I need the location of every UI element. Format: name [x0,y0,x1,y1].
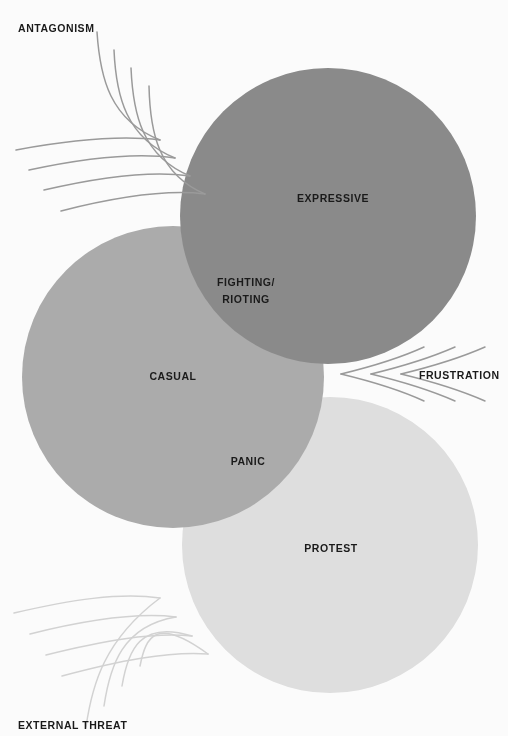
label-expressive: EXPRESSIVE [297,192,369,204]
label-antagonism: ANTAGONISM [18,22,94,34]
venn-diagram-canvas: EXPRESSIVE CASUAL PROTEST FIGHTING/ RIOT… [0,0,508,736]
label-casual: CASUAL [149,370,196,382]
antagonism-arrow-icon [16,32,205,211]
label-panic: PANIC [231,455,266,467]
label-fighting-rioting-line1: FIGHTING/ [217,276,275,288]
external-threat-arrow-icon [14,596,208,727]
label-external-threat: EXTERNAL THREAT [18,719,127,731]
label-protest: PROTEST [304,542,357,554]
label-fighting-rioting-line2: RIOTING [222,293,270,305]
venn-diagram: EXPRESSIVE CASUAL PROTEST FIGHTING/ RIOT… [0,0,508,736]
label-frustration: FRUSTRATION [419,369,500,381]
circle-expressive[interactable] [180,68,476,364]
